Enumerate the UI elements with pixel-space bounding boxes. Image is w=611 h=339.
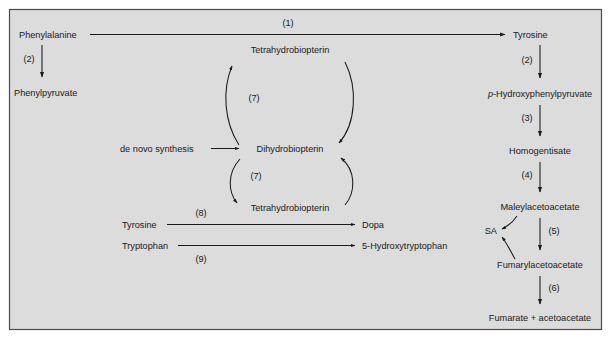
pathway-figure: Phenylalanine (1) Tyrosine (2) Phenylpyr… (0, 0, 611, 339)
diagram-frame (10, 10, 602, 330)
step-label-3: (3) (521, 113, 532, 123)
step-label-4: (4) (521, 170, 532, 180)
node-tetrahydrobiopterin-upper: Tetrahydrobiopterin (251, 45, 330, 55)
node-hydroxyphenylpyruvate: p-Hydroxyphenylpyruvate (487, 89, 592, 99)
node-fumarylacetoacetate: Fumarylacetoacetate (497, 260, 583, 270)
step-label-6: (6) (548, 283, 559, 293)
node-dopa: Dopa (362, 220, 385, 230)
node-fumarate-acetoacetate: Fumarate + acetoacetate (489, 313, 591, 323)
step-label-9: (9) (195, 254, 206, 264)
node-sa: SA (485, 226, 498, 236)
node-homogentisate: Homogentisate (509, 146, 571, 156)
step-label-2-left: (2) (23, 54, 34, 64)
node-tyrosine-lower: Tyrosine (122, 220, 157, 230)
node-de-novo-synthesis: de novo synthesis (120, 144, 194, 154)
step-label-1: (1) (282, 18, 293, 28)
node-tryptophan: Tryptophan (122, 241, 168, 251)
step-label-5: (5) (548, 226, 559, 236)
hydroxyphenylpyruvate-rest: -Hydroxyphenylpyruvate (493, 89, 592, 99)
step-label-2-right: (2) (521, 55, 532, 65)
node-dihydrobiopterin: Dihydrobiopterin (257, 144, 324, 154)
node-phenylalanine: Phenylalanine (19, 30, 77, 40)
step-label-8: (8) (195, 208, 206, 218)
node-tetrahydrobiopterin-lower: Tetrahydrobiopterin (251, 203, 330, 213)
step-label-7-upper: (7) (248, 93, 259, 103)
node-maleylacetoacetate: Maleylacetoacetate (500, 202, 579, 212)
node-hydroxytryptophan: 5-Hydroxytryptophan (362, 241, 447, 251)
step-label-7-lower: (7) (250, 171, 261, 181)
node-phenylpyruvate: Phenylpyruvate (14, 88, 77, 98)
node-tyrosine-top: Tyrosine (513, 30, 548, 40)
pathway-diagram: Phenylalanine (1) Tyrosine (2) Phenylpyr… (0, 0, 611, 339)
